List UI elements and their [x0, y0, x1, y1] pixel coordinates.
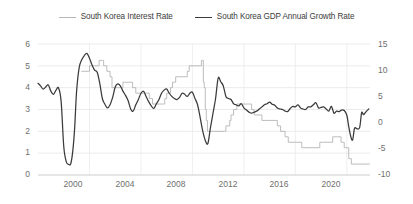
x-tick-2004: 2004: [105, 180, 145, 189]
chart-legend: South Korea Interest Rate South Korea GD…: [0, 10, 413, 24]
y-left-tick-6: 6: [4, 40, 30, 49]
y-right-tick-5: 5: [378, 92, 408, 101]
y-right-tick-neg10: -10: [378, 170, 408, 179]
horizontal-gridlines: [38, 44, 370, 175]
legend-item-gdp-growth[interactable]: South Korea GDP Annual Growth Rate: [195, 12, 355, 22]
data-series-group: [38, 53, 369, 165]
y-right-tick-0: 0: [378, 118, 408, 127]
line-swatch-icon: [59, 17, 76, 18]
y-right-tick-15: 15: [378, 40, 408, 49]
x-tick-2016: 2016: [259, 180, 299, 189]
y-right-tick-10: 10: [378, 66, 408, 75]
y-left-tick-0: 0: [4, 170, 30, 179]
legend-label-gdp-growth: South Korea GDP Annual Growth Rate: [217, 12, 355, 22]
x-tick-2020: 2020: [311, 180, 351, 189]
line-swatch-icon: [195, 17, 212, 18]
series-line-interest-rate: [82, 60, 370, 164]
x-tick-2008: 2008: [156, 180, 196, 189]
x-tick-2000: 2000: [53, 180, 93, 189]
x-tick-2012: 2012: [208, 180, 248, 189]
y-left-tick-5: 5: [4, 62, 30, 71]
legend-label-interest-rate: South Korea Interest Rate: [81, 12, 173, 22]
y-right-tick-neg5: -5: [378, 144, 408, 153]
legend-item-interest-rate[interactable]: South Korea Interest Rate: [59, 12, 173, 22]
chart-container: South Korea Interest Rate South Korea GD…: [0, 0, 413, 204]
plot-area: [38, 44, 370, 175]
y-left-tick-3: 3: [4, 105, 30, 114]
chart-plot-svg: [38, 44, 370, 175]
y-left-tick-1: 1: [4, 148, 30, 157]
y-left-tick-4: 4: [4, 83, 30, 92]
y-left-tick-2: 2: [4, 127, 30, 136]
